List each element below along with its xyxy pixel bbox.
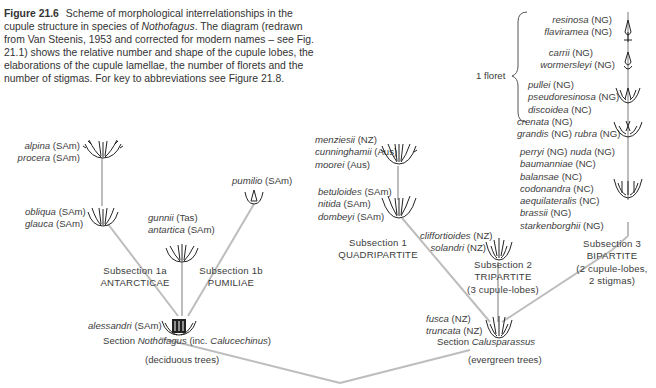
brace-label: 1 floret: [476, 70, 505, 82]
cupule-2-lobe-lamellate-icon: [612, 118, 644, 140]
cupule-1-floret-narrow-icon: [620, 18, 636, 44]
group-pumilio: pumilio (SAm): [232, 175, 292, 187]
group-fusca: fusca (NZ) truncata (NZ): [426, 313, 483, 338]
group-alessandri: alessandri (SAm): [88, 320, 162, 332]
subsection-1b-label: Subsection 1b PUMILIAE: [196, 265, 266, 290]
brace-icon: [512, 12, 527, 122]
group-obliqua: obliqua (SAm) glauca (SAm): [25, 206, 86, 231]
group-pullei: pullei (NG) pseudoresinosa (NG) discoide…: [528, 79, 619, 116]
cupule-pumilio-icon: [243, 188, 265, 206]
cupule-3-lobe-fusca-icon: [484, 314, 514, 340]
cupule-3-lobe-solandri-icon: [484, 236, 514, 262]
group-perryi: perryi (NG) nuda (NG) baumanniae (NC) ba…: [520, 146, 615, 232]
group-gunnii: gunnii (Tas) antartica (SAm): [148, 212, 215, 237]
cupule-4-lobe-alessandri-icon: [160, 315, 198, 337]
group-resinosa: resinosa (NG) flaviramea (NG): [540, 14, 612, 39]
section-calusparassus-habit: (evergreen trees): [468, 354, 542, 366]
cupule-4-lobe-betuloides-icon: [380, 194, 418, 220]
cupule-4-lobe-antartica-icon: [164, 242, 200, 264]
subsection-2-label: Subsection 2 TRIPARTITE (3 cupule-lobes): [458, 259, 548, 296]
subsection-1-label: Subsection 1 QUADRIPARTITE: [330, 237, 426, 262]
section-nothofagus-habit: (deciduous trees): [145, 354, 219, 366]
group-crenata: crenata (NG) grandis (NG) rubra (NG): [517, 116, 620, 141]
cupule-1-floret-short-icon: [620, 50, 636, 74]
cupule-4-lobe-alpina-icon: [83, 138, 123, 160]
subsection-1a-label: Subsection 1a ANTARCTICAE: [100, 265, 170, 290]
subsection-3-label: Subsection 3 BIPARTITE (2 cupule-lobes, …: [572, 238, 652, 287]
group-alpina: alpina (SAm) procera (SAm): [10, 140, 80, 165]
cupule-2-lobe-3-florets-icon: [612, 175, 644, 201]
cupule-4-lobe-menziesii-icon: [380, 142, 418, 166]
cupule-4-lobe-obliqua-icon: [86, 206, 120, 228]
group-cliffortioides: cliffortioides (NZ) solandri (NZ): [420, 230, 486, 255]
group-carrii: carrii (NG) wormersleyi (NG): [530, 47, 615, 72]
cupule-2-lobe-icon: [614, 84, 642, 106]
